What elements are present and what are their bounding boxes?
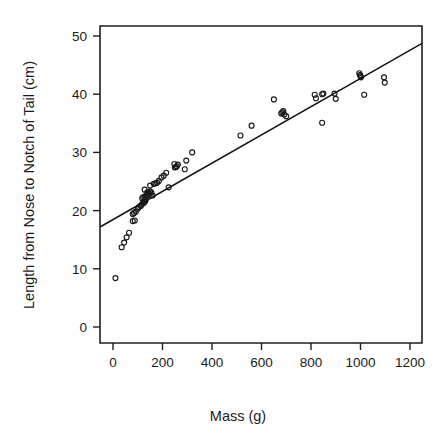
y-tick-label: 10	[72, 262, 87, 277]
data-point	[362, 92, 367, 97]
x-axis-title: Mass (g)	[210, 408, 266, 424]
x-tick-label: 200	[151, 355, 174, 370]
data-point	[271, 97, 276, 102]
y-tick-label: 0	[79, 320, 87, 335]
y-axis-ticks: 01020304050	[72, 29, 100, 335]
y-tick-label: 50	[72, 29, 87, 44]
data-points-layer	[113, 71, 387, 281]
data-point	[382, 80, 387, 85]
data-point	[127, 230, 132, 235]
y-tick-label: 20	[72, 204, 87, 219]
data-point	[190, 150, 195, 155]
x-tick-label: 1000	[345, 355, 375, 370]
data-point	[238, 133, 243, 138]
x-tick-label: 1200	[395, 355, 425, 370]
data-point	[249, 123, 254, 128]
data-point	[333, 96, 338, 101]
x-tick-label: 0	[109, 355, 117, 370]
data-point	[382, 75, 387, 80]
data-point	[182, 167, 187, 172]
data-point	[122, 240, 127, 245]
plot-canvas: 020040060080010001200 01020304050 Mass (…	[0, 0, 448, 448]
data-point	[320, 120, 325, 125]
data-point	[113, 276, 118, 281]
data-point	[184, 158, 189, 163]
x-tick-label: 600	[250, 355, 273, 370]
y-axis-title: Length from Nose to Notch of Tail (cm)	[21, 61, 37, 309]
y-tick-label: 40	[72, 87, 87, 102]
regression-line	[100, 43, 422, 227]
y-tick-label: 30	[72, 145, 87, 160]
scatter-plot-figure: 020040060080010001200 01020304050 Mass (…	[0, 0, 448, 448]
x-tick-label: 400	[201, 355, 224, 370]
x-tick-label: 800	[300, 355, 323, 370]
x-axis-ticks: 020040060080010001200	[109, 343, 425, 370]
